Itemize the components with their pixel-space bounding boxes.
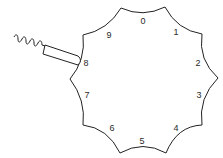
plunger-rod bbox=[43, 45, 81, 65]
dial-outline bbox=[70, 7, 218, 153]
spring-icon bbox=[14, 35, 45, 46]
dial-diagram: 0 1 2 3 4 5 6 7 8 9 bbox=[0, 0, 223, 158]
position-label-2: 2 bbox=[195, 58, 200, 68]
position-label-9: 9 bbox=[106, 30, 111, 40]
position-label-8: 8 bbox=[83, 58, 88, 68]
position-label-7: 7 bbox=[84, 90, 89, 100]
position-label-4: 4 bbox=[173, 123, 178, 133]
position-label-1: 1 bbox=[173, 27, 178, 37]
position-label-6: 6 bbox=[109, 123, 114, 133]
position-labels: 0 1 2 3 4 5 6 7 8 9 bbox=[83, 16, 201, 146]
position-label-0: 0 bbox=[140, 16, 145, 26]
position-label-5: 5 bbox=[139, 136, 144, 146]
position-label-3: 3 bbox=[196, 90, 201, 100]
